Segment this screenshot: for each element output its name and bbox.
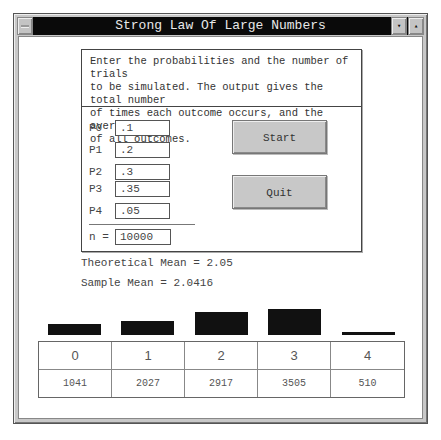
histogram-bar-1	[121, 321, 174, 335]
histogram-bar-0	[48, 324, 101, 335]
p3-input[interactable]	[115, 181, 170, 197]
maximize-icon: ▴	[414, 22, 418, 30]
app-window: Strong Law Of Large Numbers ▾ ▴ Enter th…	[13, 13, 428, 424]
p1-label: P1	[89, 142, 111, 158]
outcome-header-2: 2	[185, 342, 258, 370]
window-menu-button[interactable]	[17, 17, 33, 35]
outcome-count-3: 3505	[258, 370, 331, 397]
minimize-button[interactable]: ▾	[391, 17, 407, 35]
instructions-text: Enter the probabilities and the number o…	[82, 50, 361, 107]
theoretical-mean-text: Theoretical Mean = 2.05	[81, 257, 233, 269]
trials-input[interactable]	[115, 229, 171, 245]
p3-label: P3	[89, 181, 111, 197]
p4-label: P4	[89, 203, 111, 219]
outcome-header-4: 4	[331, 342, 404, 370]
p4-input[interactable]	[115, 203, 170, 219]
separator-line	[89, 224, 195, 225]
client-area: Enter the probabilities and the number o…	[18, 36, 423, 419]
p1-input[interactable]	[115, 142, 170, 158]
start-button[interactable]: Start	[232, 120, 327, 154]
histogram-bar-3	[268, 309, 321, 335]
p0-input[interactable]	[115, 120, 170, 136]
outcome-header-0: 0	[39, 342, 112, 370]
outcome-count-2: 2917	[185, 370, 258, 397]
sample-mean-text: Sample Mean = 2.0416	[81, 277, 213, 289]
outcome-header-1: 1	[112, 342, 185, 370]
title-bar[interactable]: Strong Law Of Large Numbers ▾ ▴	[17, 17, 424, 35]
window-menu-icon	[21, 25, 29, 27]
p2-input[interactable]	[115, 164, 170, 180]
histogram-bar-4	[342, 332, 395, 335]
outcome-count-4: 510	[331, 370, 404, 397]
outcome-count-1: 2027	[112, 370, 185, 397]
trials-label: n =	[89, 229, 111, 245]
p2-label: P2	[89, 164, 111, 180]
results-table: 0 1 2 3 4 1041 2027 2917 3505 510	[38, 341, 405, 398]
maximize-button[interactable]: ▴	[408, 17, 424, 35]
window-title: Strong Law Of Large Numbers	[17, 17, 424, 35]
quit-button[interactable]: Quit	[232, 175, 327, 209]
input-panel: Enter the probabilities and the number o…	[81, 49, 362, 252]
outcome-header-3: 3	[258, 342, 331, 370]
p0-label: P0	[89, 120, 111, 136]
histogram-bar-2	[195, 312, 248, 335]
minimize-icon: ▾	[397, 22, 401, 30]
outcome-count-0: 1041	[39, 370, 112, 397]
